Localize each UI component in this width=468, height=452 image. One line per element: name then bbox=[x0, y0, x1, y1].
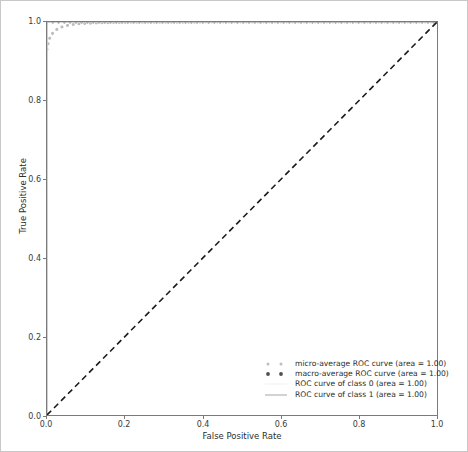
xtick-mark-3 bbox=[281, 416, 282, 419]
x-axis-label: False Positive Rate bbox=[46, 431, 438, 441]
ytick-mark-1 bbox=[43, 337, 46, 338]
legend-item-micro-average: micro-average ROC curve (area = 1.00) bbox=[263, 359, 449, 369]
y-axis-label: True Positive Rate bbox=[18, 86, 28, 306]
xtick-label-0: 0.0 bbox=[40, 420, 53, 429]
xtick-mark-4 bbox=[359, 416, 360, 419]
xtick-mark-1 bbox=[124, 416, 125, 419]
plot-area bbox=[46, 21, 438, 416]
series-micro-average-roc-curve-area-1-00- bbox=[47, 22, 437, 50]
legend-label-class-1: ROC curve of class 1 (area = 1.00) bbox=[295, 390, 427, 400]
xtick-label-4: 0.8 bbox=[353, 420, 366, 429]
ytick-label-1: 0.2 bbox=[15, 333, 41, 342]
dotted-light-line-icon bbox=[263, 359, 289, 369]
legend-item-macro-average: macro-average ROC curve (area = 1.00) bbox=[263, 369, 449, 379]
xtick-label-5: 1.0 bbox=[431, 420, 444, 429]
ytick-label-5: 1.0 bbox=[15, 17, 41, 26]
ytick-mark-5 bbox=[43, 21, 46, 22]
gray-line-icon bbox=[263, 390, 289, 400]
xtick-mark-5 bbox=[437, 416, 438, 419]
legend-label-macro-average: macro-average ROC curve (area = 1.00) bbox=[295, 369, 449, 379]
xtick-label-1: 0.2 bbox=[118, 420, 131, 429]
plot-canvas bbox=[47, 22, 437, 415]
series-chance-line bbox=[47, 22, 437, 415]
faint-line-icon bbox=[263, 379, 289, 389]
roc-curve-figure: 0.0 0.2 0.4 0.6 0.8 1.0 0.0 0.2 0.4 0.6 … bbox=[0, 0, 468, 452]
ytick-mark-3 bbox=[43, 179, 46, 180]
xtick-label-3: 0.6 bbox=[275, 420, 288, 429]
legend-label-class-0: ROC curve of class 0 (area = 1.00) bbox=[295, 379, 427, 389]
ytick-mark-4 bbox=[43, 100, 46, 101]
legend-item-class-0: ROC curve of class 0 (area = 1.00) bbox=[263, 379, 449, 389]
xtick-label-2: 0.4 bbox=[197, 420, 210, 429]
legend-label-micro-average: micro-average ROC curve (area = 1.00) bbox=[295, 359, 446, 369]
ytick-label-0: 0.0 bbox=[15, 412, 41, 421]
xtick-mark-0 bbox=[46, 416, 47, 419]
ytick-mark-2 bbox=[43, 258, 46, 259]
xtick-mark-2 bbox=[203, 416, 204, 419]
dotted-dark-line-icon bbox=[263, 369, 289, 379]
legend-item-class-1: ROC curve of class 1 (area = 1.00) bbox=[263, 390, 449, 400]
chart-legend: micro-average ROC curve (area = 1.00) ma… bbox=[263, 359, 449, 400]
